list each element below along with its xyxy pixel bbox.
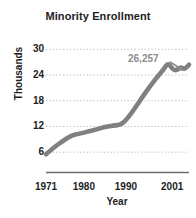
data-point-annotation: 26,257: [128, 53, 159, 64]
minority-enrollment-chart: Minority Enrollment Thousands 612182430 …: [0, 0, 196, 218]
x-axis-tick-labels: 1971198019902001: [0, 181, 196, 195]
x-axis-title: Year: [44, 196, 190, 207]
x-axis-tick-label: 1990: [115, 181, 137, 192]
x-axis-tick-label: 1980: [73, 181, 95, 192]
data-series-line: [46, 64, 189, 154]
x-axis-tick-label: 2001: [161, 181, 183, 192]
x-axis-tick-label: 1971: [35, 181, 57, 192]
